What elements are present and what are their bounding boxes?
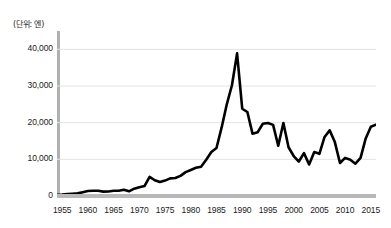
x-axis-tick-label: 1955 — [53, 205, 72, 215]
x-axis-tick-label: 1975 — [156, 205, 175, 215]
x-axis-tick-label: 1990 — [233, 205, 252, 215]
x-axis-tick-label: 2015 — [362, 205, 381, 215]
x-axis-tick-label: 1985 — [207, 205, 226, 215]
x-axis-tick-label: 1960 — [79, 205, 98, 215]
x-axis-tick-label: 2005 — [310, 205, 329, 215]
x-axis-tick-label-group: 1955196019651970197519801985199019952000… — [0, 0, 391, 228]
x-axis-tick-label: 1965 — [104, 205, 123, 215]
x-axis-tick-label: 2010 — [336, 205, 355, 215]
x-axis-tick-label: 1995 — [259, 205, 278, 215]
nikkei-line-chart-figure: (단위: 엔) 010,00020,00030,00040,000 195519… — [0, 0, 391, 228]
x-axis-tick-label: 2000 — [284, 205, 303, 215]
x-axis-tick-label: 1970 — [130, 205, 149, 215]
x-axis-tick-label: 1980 — [182, 205, 201, 215]
